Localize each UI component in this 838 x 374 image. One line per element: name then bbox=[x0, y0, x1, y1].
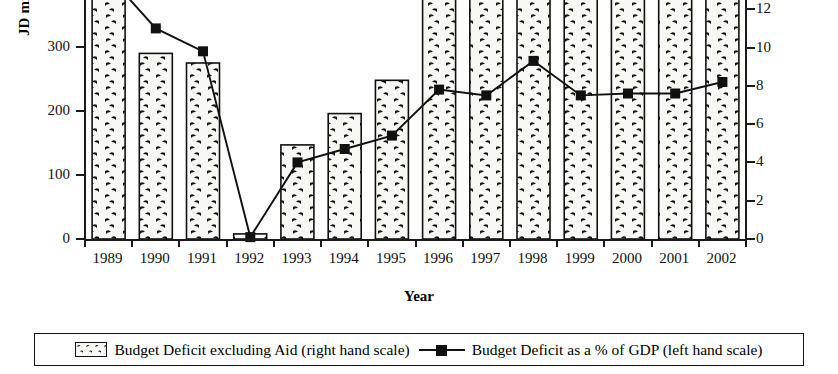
y-axis-right-tick bbox=[746, 161, 755, 163]
x-axis-tick-label-2002: 2002 bbox=[698, 249, 744, 267]
line-marker bbox=[623, 89, 633, 99]
bar-1995 bbox=[375, 80, 408, 239]
x-axis-tick bbox=[509, 240, 511, 247]
bar-1991 bbox=[187, 63, 220, 239]
x-axis-tick bbox=[698, 240, 700, 247]
x-axis-tick-label-1995: 1995 bbox=[368, 249, 414, 267]
bar-1999 bbox=[564, 0, 597, 239]
x-axis-tick-label-1989: 1989 bbox=[85, 249, 131, 267]
x-axis-tick bbox=[84, 240, 86, 247]
line-marker bbox=[529, 56, 539, 66]
x-axis-tick-label-1998: 1998 bbox=[510, 249, 556, 267]
line-marker bbox=[198, 46, 208, 56]
x-axis-tick-labels: 1989199019911992199319941995199619971998… bbox=[84, 249, 746, 273]
x-axis-tick-label-1992: 1992 bbox=[226, 249, 272, 267]
bar-1997 bbox=[470, 0, 503, 239]
x-axis-tick bbox=[745, 240, 747, 247]
y-axis-left-tick bbox=[76, 110, 85, 112]
bar-2002 bbox=[706, 0, 739, 239]
x-axis-tick-label-1990: 1990 bbox=[132, 249, 178, 267]
y-axis-left-tick-label: 200 bbox=[30, 103, 70, 118]
x-axis-tick bbox=[320, 240, 322, 247]
x-axis-tick-label-1991: 1991 bbox=[179, 249, 225, 267]
y-axis-right-tick-label: 4 bbox=[756, 154, 796, 169]
x-axis-tick bbox=[131, 240, 133, 247]
y-axis-right-tick bbox=[746, 200, 755, 202]
y-axis-left-tick bbox=[76, 46, 85, 48]
x-axis-title: Year bbox=[0, 288, 838, 305]
x-axis-tick bbox=[603, 240, 605, 247]
legend-label-line: Budget Deficit as a % of GDP (left hand … bbox=[472, 341, 763, 358]
bar-1996 bbox=[423, 0, 456, 239]
line-marker bbox=[717, 77, 727, 87]
x-axis-tick bbox=[178, 240, 180, 247]
y-axis-right-tick-label: 6 bbox=[756, 116, 796, 131]
bar-series bbox=[92, 0, 739, 239]
y-axis-left-tick-label: 0 bbox=[30, 231, 70, 246]
y-axis-right-tick-label: 0 bbox=[756, 231, 796, 246]
y-axis-left-title: JD millions bbox=[16, 0, 33, 59]
line-marker bbox=[387, 131, 397, 141]
y-axis-right-spine bbox=[745, 0, 747, 241]
chart-legend: Budget Deficit excluding Aid (right hand… bbox=[34, 333, 804, 366]
x-axis-tick-label-1999: 1999 bbox=[557, 249, 603, 267]
patterned-box-icon bbox=[75, 342, 107, 357]
x-axis-tick-label-1997: 1997 bbox=[462, 249, 508, 267]
bar-1994 bbox=[328, 114, 361, 239]
bar-1989 bbox=[92, 0, 125, 239]
x-axis-tick bbox=[273, 240, 275, 247]
y-axis-left-spine bbox=[84, 0, 86, 241]
y-axis-left-tick bbox=[76, 174, 85, 176]
y-axis-right-title: Percentage bbox=[760, 0, 777, 10]
line-marker bbox=[670, 89, 680, 99]
bar-2001 bbox=[659, 0, 692, 239]
x-axis-tick-label-1993: 1993 bbox=[273, 249, 319, 267]
x-axis-tick bbox=[367, 240, 369, 247]
legend-label-bars: Budget Deficit excluding Aid (right hand… bbox=[114, 341, 409, 358]
x-axis-tick bbox=[462, 240, 464, 247]
legend-entry-line: Budget Deficit as a % of GDP (left hand … bbox=[419, 341, 763, 358]
y-axis-right-tick bbox=[746, 85, 755, 87]
x-axis-tick bbox=[651, 240, 653, 247]
y-axis-right-tick-label: 8 bbox=[756, 78, 796, 93]
legend-entry-bars: Budget Deficit excluding Aid (right hand… bbox=[75, 341, 409, 358]
line-marker bbox=[293, 157, 303, 167]
x-axis-tick-label-2000: 2000 bbox=[604, 249, 650, 267]
y-axis-right-tick bbox=[746, 8, 755, 10]
line-marker bbox=[151, 23, 161, 33]
bar-2000 bbox=[611, 0, 644, 239]
chart-canvas bbox=[0, 0, 838, 374]
bar-1990 bbox=[139, 53, 172, 239]
line-square-marker-icon bbox=[419, 343, 465, 356]
x-axis-tick bbox=[415, 240, 417, 247]
y-axis-right-tick bbox=[746, 47, 755, 49]
x-axis-tick bbox=[226, 240, 228, 247]
x-axis-tick-label-1996: 1996 bbox=[415, 249, 461, 267]
y-axis-right-tick-label: 2 bbox=[756, 193, 796, 208]
y-axis-right-tick bbox=[746, 123, 755, 125]
line-marker bbox=[434, 85, 444, 95]
y-axis-right-tick-label: 10 bbox=[756, 40, 796, 55]
bar-1998 bbox=[517, 0, 550, 239]
chart-figure: 3002001000 121086420 1989199019911992199… bbox=[0, 0, 838, 374]
line-marker bbox=[340, 144, 350, 154]
y-axis-left-tick-label: 300 bbox=[30, 39, 70, 54]
x-axis-tick-label-1994: 1994 bbox=[321, 249, 367, 267]
y-axis-right-tick bbox=[746, 238, 755, 240]
y-axis-left-tick-label: 100 bbox=[30, 167, 70, 182]
line-marker bbox=[576, 90, 586, 100]
x-axis-tick-label-2001: 2001 bbox=[651, 249, 697, 267]
line-marker bbox=[481, 90, 491, 100]
x-axis-tick bbox=[556, 240, 558, 247]
